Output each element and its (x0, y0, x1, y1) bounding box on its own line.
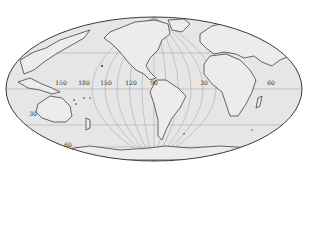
longitude-label: 180 (78, 80, 89, 86)
latitude-label: 60 (64, 142, 72, 148)
longitude-label: 30 (200, 80, 208, 86)
latitude-label: 30 (29, 111, 37, 117)
longitude-label: 150 (100, 80, 111, 86)
longitude-label: 90 (150, 80, 158, 86)
longitude-label: 150 (55, 80, 66, 86)
longitude-label: 60 (267, 80, 275, 86)
longitude-label: 120 (125, 80, 136, 86)
new-zealand (86, 118, 90, 130)
antarctica (10, 146, 300, 160)
